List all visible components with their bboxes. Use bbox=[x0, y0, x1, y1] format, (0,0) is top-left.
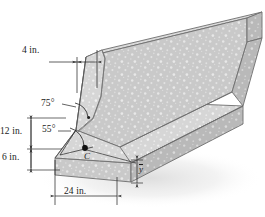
figure-concrete-barrier: 4 in. 75° 55° 12 in. 6 in. 24 in. C y bbox=[0, 0, 265, 217]
angle-leader-75 bbox=[62, 104, 76, 107]
label-centroid-height: y bbox=[139, 164, 143, 174]
label-base-height: 6 in. bbox=[2, 152, 19, 162]
label-angle-75: 75° bbox=[41, 98, 55, 108]
angle-vertex-dot-75 bbox=[87, 116, 90, 119]
label-base-width: 24 in. bbox=[64, 186, 86, 196]
label-centroid: C bbox=[84, 151, 90, 161]
barrier-drawing bbox=[0, 0, 265, 217]
label-angle-55: 55° bbox=[42, 124, 56, 134]
label-top-width: 4 in. bbox=[22, 45, 39, 55]
label-upper-height: 12 in. bbox=[0, 126, 22, 136]
